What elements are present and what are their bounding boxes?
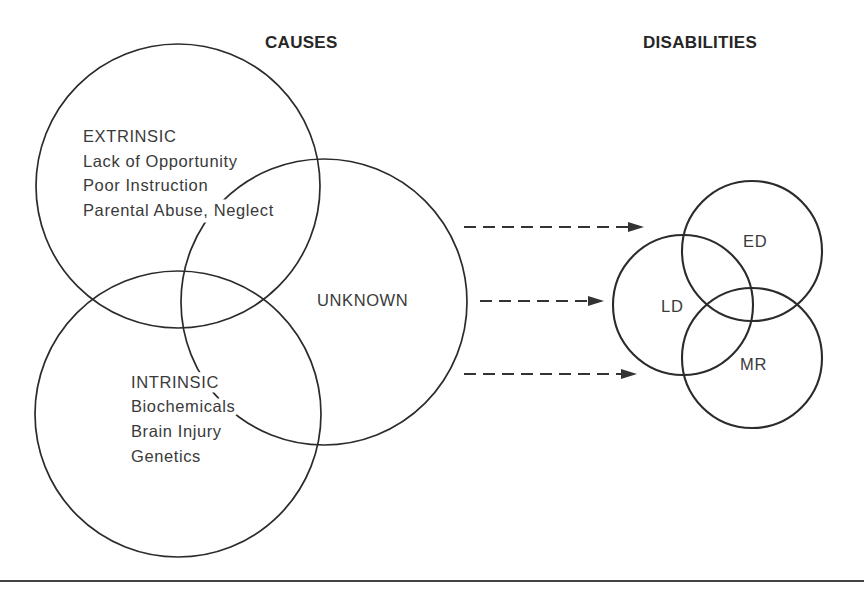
extrinsic-item: Lack of Opportunity <box>83 152 238 170</box>
ed-label: ED <box>743 232 768 250</box>
extrinsic-title: EXTRINSIC <box>83 127 176 145</box>
intrinsic-item: Biochemicals <box>131 397 235 415</box>
causes-disabilities-diagram: CAUSES DISABILITIES Parental Abuse, Negl… <box>0 0 864 591</box>
disabilities-heading: DISABILITIES <box>643 33 757 52</box>
arrowhead-icon <box>628 222 644 232</box>
intrinsic-title: INTRINSIC <box>131 373 219 391</box>
ld-label: LD <box>661 297 684 315</box>
extrinsic-item: Poor Instruction <box>83 176 208 194</box>
extrinsic-item: Parental Abuse, Neglect <box>83 201 274 219</box>
mr-label: MR <box>740 355 767 373</box>
arrow-bottom <box>464 369 637 379</box>
arrowhead-icon <box>588 296 604 306</box>
extrinsic-label: EXTRINSIC Lack of Opportunity Poor Instr… <box>83 127 274 219</box>
arrowhead-icon <box>621 369 637 379</box>
arrow-middle <box>480 296 604 306</box>
unknown-label: UNKNOWN <box>317 291 408 309</box>
intrinsic-item: Brain Injury <box>131 422 222 440</box>
intrinsic-item: Genetics <box>131 447 201 465</box>
intrinsic-label: INTRINSIC Biochemicals Brain Injury Gene… <box>131 373 235 465</box>
arrow-top <box>464 222 644 232</box>
causes-heading: CAUSES <box>265 33 338 52</box>
